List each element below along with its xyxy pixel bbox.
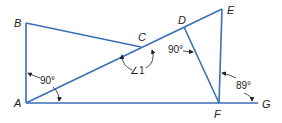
angle-label-BAF: 90° (40, 75, 55, 86)
angle-label-1: ∠1 (130, 65, 145, 76)
angle-arrow-BAF-up (28, 73, 40, 78)
point-label-G: G (262, 98, 271, 110)
angle-1-arrow-right (146, 50, 153, 68)
angle-label-CDF: 90° (168, 44, 183, 55)
segment-AE (26, 9, 222, 103)
geometry-diagram: B A C D E F G 90° ∠1 90° 89° (0, 0, 282, 123)
segment-EF (219, 9, 222, 103)
angle-arrow-EFG-up (222, 73, 236, 78)
segment-DF (184, 27, 219, 103)
point-label-A: A (13, 97, 21, 109)
angle-label-EFG: 89° (236, 80, 251, 91)
point-label-D: D (178, 14, 186, 26)
point-label-E: E (227, 4, 235, 16)
point-label-F: F (214, 108, 222, 120)
point-label-B: B (14, 17, 21, 29)
segment-BC (26, 23, 141, 47)
angle-arrow-CDF (183, 51, 193, 52)
angle-arrow-EFG-down (244, 93, 252, 101)
point-label-C: C (138, 31, 146, 43)
